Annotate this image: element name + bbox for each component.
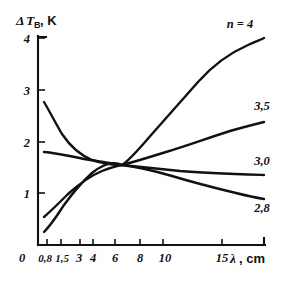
chart-figure: 4 3 2 1 0 0,8 1,5 3 4 6 8 10 15 Δ T В , … (0, 0, 298, 283)
curve-n-4 (44, 38, 264, 232)
y-axis-title: Δ T В , K (15, 13, 57, 30)
line-chart: 4 3 2 1 0 0,8 1,5 3 4 6 8 10 15 Δ T В , … (0, 0, 298, 283)
axis-frame (38, 36, 265, 245)
y-axis-title-unit: , K (40, 13, 57, 28)
x-tick-label-0: 0 (19, 251, 26, 265)
curve-label-3-5: 3,5 (253, 99, 270, 113)
x-axis-title-unit: , cm (239, 251, 265, 266)
y-axis-title-delta: Δ (15, 13, 24, 28)
x-axis-title: λ , cm (229, 251, 265, 266)
curve-label-3-0: 3,0 (253, 154, 270, 168)
y-tick-label-1: 1 (24, 187, 30, 201)
y-tick-label-2: 2 (23, 136, 30, 150)
curve-2-8 (44, 102, 264, 199)
curve-labels: n = 4 3,5 3,0 2,8 (227, 17, 271, 215)
x-tick-label-0_8: 0,8 (38, 252, 52, 264)
x-tick-labels: 0 0,8 1,5 3 4 6 8 10 15 (19, 251, 228, 265)
curve-label-n-4: n = 4 (227, 17, 254, 31)
x-tick-label-10: 10 (159, 251, 172, 265)
x-tick-label-4: 4 (89, 251, 96, 265)
x-axis-title-symbol: λ (229, 251, 236, 266)
y-tick-label-4: 4 (23, 32, 30, 46)
curve-group (44, 38, 264, 232)
curve-label-2-8: 2,8 (253, 201, 270, 215)
y-tick-labels: 4 3 2 1 (23, 32, 30, 201)
x-tick-label-6: 6 (112, 251, 119, 265)
x-tick-label-3: 3 (75, 251, 82, 265)
x-tick-label-8: 8 (137, 251, 144, 265)
x-tick-label-1_5: 1,5 (55, 252, 69, 264)
y-tick-label-3: 3 (23, 84, 30, 98)
x-tick-label-15: 15 (216, 251, 229, 265)
